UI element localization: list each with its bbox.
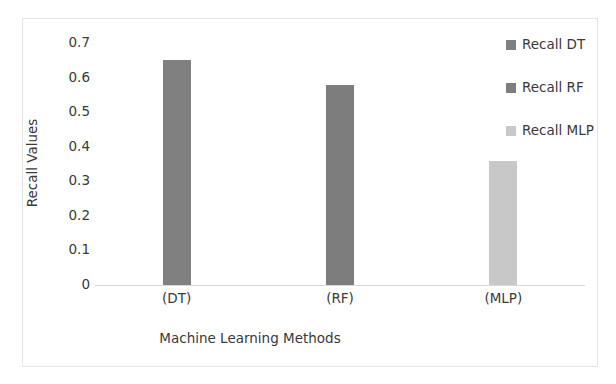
y-axis-tick-label: 0.2 [56,209,90,223]
bar [489,161,517,285]
legend-label: Recall RF [522,81,584,95]
x-axis-line [95,285,585,286]
y-axis-tick-label: 0.7 [56,36,90,50]
x-axis-tick-label: (RF) [326,292,354,306]
legend-swatch-icon [506,126,516,136]
y-axis-tick-labels: 0.70.60.50.40.30.20.10 [50,0,90,384]
x-axis-title: Machine Learning Methods [0,330,500,346]
bar [326,85,354,286]
y-axis-title: Recall Values [24,108,40,218]
y-axis-tick-label: 0.4 [56,140,90,154]
legend-swatch-icon [506,40,516,50]
legend-item: Recall RF [506,81,610,95]
legend-item: Recall MLP [506,124,610,138]
recall-bar-chart: 0.70.60.50.40.30.20.10 (DT)(RF)(MLP) Mac… [0,0,616,384]
legend-item: Recall DT [506,38,610,52]
legend-label: Recall DT [522,38,585,52]
y-axis-tick-label: 0.6 [56,71,90,85]
legend-swatch-icon [506,83,516,93]
y-axis-tick-label: 0.5 [56,105,90,119]
x-axis-tick-label: (MLP) [484,292,522,306]
y-axis-tick-label: 0.1 [56,244,90,258]
x-axis-category-labels: (DT)(RF)(MLP) [0,292,616,314]
y-axis-tick-label: 0.3 [56,175,90,189]
chart-legend: Recall DTRecall RFRecall MLP [506,38,610,167]
y-axis-tick-label: 0 [56,278,90,292]
legend-label: Recall MLP [522,124,594,138]
bar [163,60,191,285]
x-axis-tick-label: (DT) [162,292,191,306]
